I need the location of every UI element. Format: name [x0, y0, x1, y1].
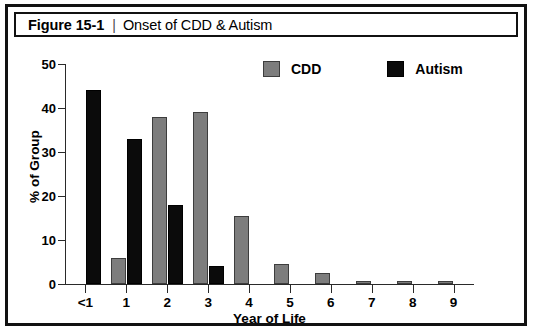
- y-tick-label: 30: [30, 145, 56, 160]
- legend-entry-cdd: CDD: [263, 61, 321, 77]
- x-tick-label: 2: [147, 295, 187, 310]
- bar-autism: [168, 205, 183, 284]
- chart-area: % of Group 01020304050 <1123456789 Year …: [8, 39, 524, 323]
- x-tick-label: 9: [434, 295, 474, 310]
- x-tick-label: 8: [393, 295, 433, 310]
- figure-title-bar: Figure 15-1 | Onset of CDD & Autism: [14, 12, 518, 37]
- y-tick-mark: [58, 196, 65, 197]
- y-tick-mark: [58, 64, 65, 65]
- bar-autism: [209, 266, 224, 284]
- bar-cdd: [152, 117, 167, 284]
- bar-cdd: [315, 273, 330, 284]
- x-tick-label: 1: [106, 295, 146, 310]
- x-tick-label: 3: [188, 295, 228, 310]
- bar-cdd: [397, 281, 412, 284]
- x-tick-mark: [126, 285, 127, 293]
- x-tick-label: 4: [229, 295, 269, 310]
- figure-container: Figure 15-1 | Onset of CDD & Autism % of…: [5, 4, 527, 326]
- x-axis-label: Year of Life: [65, 311, 474, 326]
- y-tick-mark: [58, 152, 65, 153]
- x-tick-mark: [372, 285, 373, 293]
- legend-swatch-cdd-icon: [263, 61, 280, 77]
- x-tick-label: 7: [352, 295, 392, 310]
- figure-title: Onset of CDD & Autism: [123, 17, 272, 33]
- bar-cdd: [274, 264, 289, 284]
- bar-cdd: [111, 258, 126, 284]
- x-tick-mark: [413, 285, 414, 293]
- y-tick-label: 40: [30, 101, 56, 116]
- x-tick-label: 6: [311, 295, 351, 310]
- y-tick-mark: [58, 108, 65, 109]
- y-tick-label: 20: [30, 189, 56, 204]
- figure-number: Figure 15-1: [28, 17, 104, 33]
- y-axis-line: [65, 64, 66, 285]
- bar-cdd: [438, 281, 453, 284]
- y-tick-mark: [58, 284, 65, 285]
- bar-autism: [86, 90, 101, 284]
- y-tick-label: 50: [30, 57, 56, 72]
- chart-legend: CDD Autism: [263, 61, 463, 77]
- legend-label-cdd: CDD: [291, 61, 321, 77]
- x-tick-mark: [290, 285, 291, 293]
- x-tick-mark: [331, 285, 332, 293]
- x-tick-mark: [167, 285, 168, 293]
- title-separator: |: [112, 17, 116, 33]
- x-tick-mark: [85, 285, 86, 293]
- x-tick-mark: [249, 285, 250, 293]
- x-tick-mark: [208, 285, 209, 293]
- y-tick-label: 10: [30, 233, 56, 248]
- legend-entry-autism: Autism: [387, 61, 462, 77]
- x-tick-mark: [454, 285, 455, 293]
- y-tick-label: 0: [30, 277, 56, 292]
- bar-cdd: [234, 216, 249, 284]
- plot-region: 01020304050 <1123456789 Year of Life: [8, 39, 524, 323]
- bar-autism: [127, 139, 142, 284]
- x-tick-label: 5: [270, 295, 310, 310]
- bar-cdd: [356, 281, 371, 284]
- x-tick-label: <1: [65, 295, 105, 310]
- y-tick-mark: [58, 240, 65, 241]
- bar-cdd: [193, 112, 208, 284]
- legend-label-autism: Autism: [415, 61, 462, 77]
- legend-swatch-autism-icon: [387, 61, 404, 77]
